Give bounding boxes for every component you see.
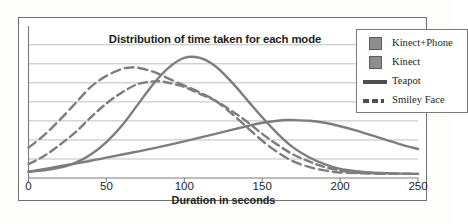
chart-frame: Distribution of time taken for each mode… — [18, 17, 427, 201]
legend-key-solid-line — [362, 74, 388, 90]
x-tick-label: 0 — [9, 180, 49, 192]
legend-dashed-line-icon — [363, 99, 387, 103]
legend-item-label: Kinect+Phone — [392, 38, 453, 49]
legend-item-label: Smiley Face — [392, 95, 445, 106]
legend-item[interactable]: Teapot — [362, 72, 463, 91]
legend-key-dashed-line — [362, 93, 388, 109]
x-tick-label: 50 — [86, 180, 126, 192]
legend-item[interactable]: Kinect+Phone — [362, 34, 463, 53]
legend-item[interactable]: Smiley Face — [362, 91, 463, 110]
x-tick-label: 150 — [242, 180, 282, 192]
legend-solid-line-icon — [363, 80, 387, 84]
x-tick-label: 200 — [320, 180, 360, 192]
legend-key-square — [362, 55, 388, 71]
legend-item-label: Teapot — [392, 76, 421, 87]
chart-legend[interactable]: Kinect+PhoneKinectTeapotSmiley Face — [356, 29, 468, 113]
x-tick-label: 100 — [164, 180, 204, 192]
legend-item-label: Kinect — [392, 57, 420, 68]
legend-square-marker-icon — [369, 56, 382, 69]
legend-square-marker-icon — [369, 37, 382, 50]
series-line-kinect — [29, 120, 419, 172]
x-tick-label: 250 — [398, 180, 438, 192]
x-axis-title: Duration in seconds — [19, 194, 428, 206]
legend-item[interactable]: Kinect — [362, 53, 463, 72]
legend-key-square — [362, 36, 388, 52]
